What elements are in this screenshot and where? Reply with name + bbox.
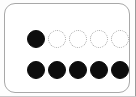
edge-rule-right	[135, 0, 136, 97]
dot-empty[interactable]	[111, 30, 129, 48]
complete-row[interactable]	[27, 61, 129, 79]
dot-filled[interactable]	[90, 61, 108, 79]
dot-empty[interactable]	[90, 30, 108, 48]
dot-indicator-card	[4, 3, 130, 93]
progress-row[interactable]	[27, 30, 129, 48]
dot-empty[interactable]	[48, 30, 66, 48]
screen-root	[0, 0, 136, 97]
dot-filled[interactable]	[48, 61, 66, 79]
dot-filled[interactable]	[111, 61, 129, 79]
dot-filled[interactable]	[27, 61, 45, 79]
dot-filled[interactable]	[27, 30, 45, 48]
dot-empty[interactable]	[69, 30, 87, 48]
edge-rule-bottom	[0, 96, 136, 97]
dot-filled[interactable]	[69, 61, 87, 79]
